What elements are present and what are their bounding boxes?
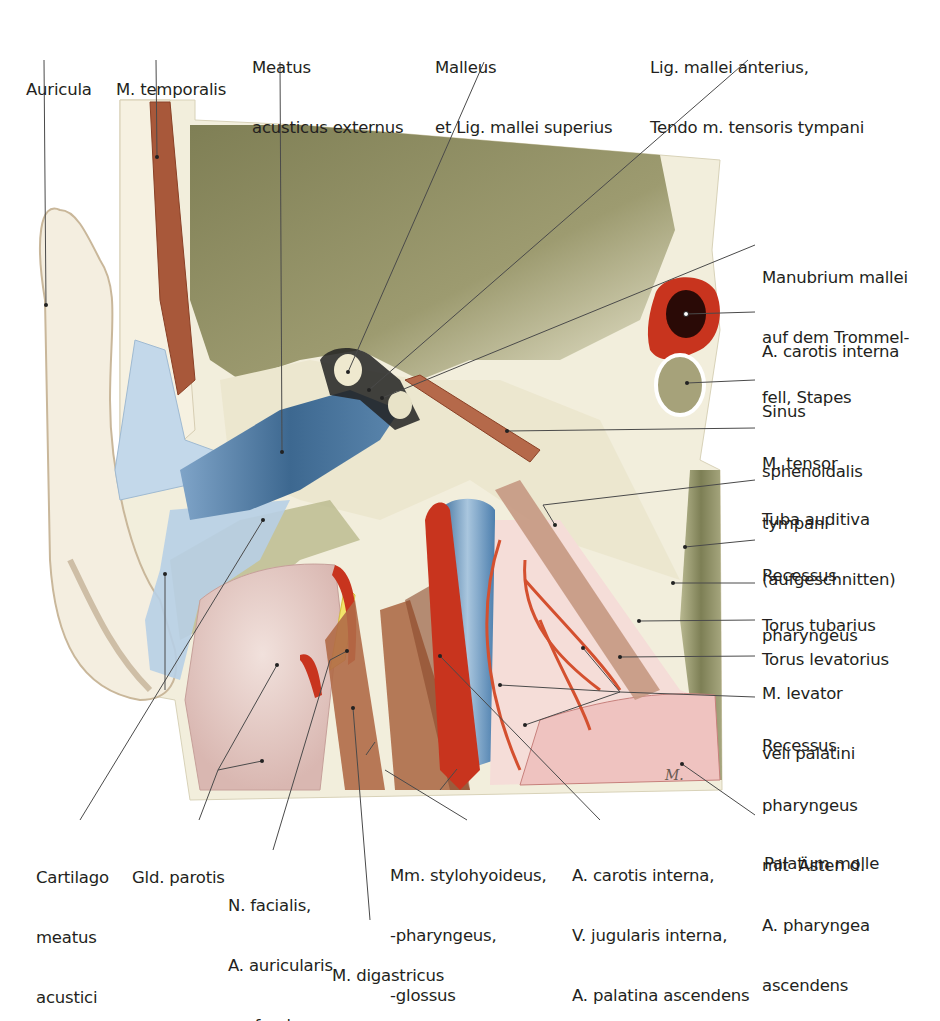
label-malleus: Malleus et Lig. mallei superius — [435, 18, 612, 158]
label-meatus-acusticus-externus: Meatus acusticus externus — [252, 18, 403, 158]
label-gld-parotis: Gld. parotis — [132, 828, 225, 908]
label-n-facialis: N. facialis, A. auricularis profunda — [228, 856, 333, 1021]
label-auricula: Auricula — [26, 40, 92, 120]
label-cartilago-meatus-acustici: Cartilago meatus acustici — [36, 828, 109, 1021]
label-mm-stylohyoideus: Mm. stylohyoideus, -pharyngeus, -glossus — [390, 826, 547, 1021]
label-palatum-molle: Palatum molle — [764, 814, 879, 894]
label-m-temporalis: M. temporalis — [116, 40, 226, 120]
sinus-sphenoidalis-shape — [656, 355, 704, 415]
label-a-carotis-interna-bottom: A. carotis interna, V. jugularis interna… — [572, 826, 750, 1021]
artist-signature: M. — [664, 767, 684, 783]
label-lig-mallei-anterius: Lig. mallei anterius, Tendo m. tensoris … — [650, 18, 864, 158]
